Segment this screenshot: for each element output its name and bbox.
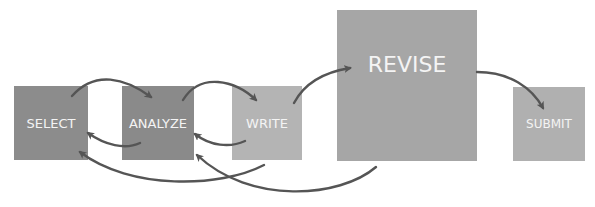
writing-process-diagram: SELECT ANALYZE WRITE REVISE SUBMIT [0, 0, 595, 207]
arrow-write-to-revise [294, 68, 350, 103]
arrow-select-to-analyze [72, 79, 151, 97]
arrows-layer [0, 0, 595, 207]
arrow-write-to-select [80, 152, 264, 182]
arrow-revise-to-submit [477, 72, 543, 108]
arrow-analyze-to-write [183, 82, 256, 100]
arrow-write-to-analyze [195, 134, 245, 145]
arrow-analyze-to-select [88, 133, 140, 146]
arrow-revise-to-analyze [197, 155, 376, 191]
